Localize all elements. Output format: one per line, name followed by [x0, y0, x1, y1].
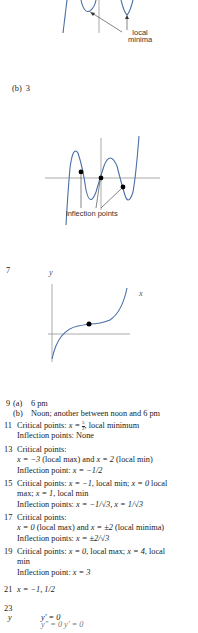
answer-9: 9 (a) 6 pm (b) Noon; another between noo…: [0, 399, 198, 420]
answer-number: 21: [4, 585, 12, 595]
answer-number: 11: [4, 421, 12, 431]
math: x = −1/√3, x = 1/√3: [76, 500, 143, 509]
text: , local min: [53, 489, 88, 498]
math: x = −1, 1/2: [17, 585, 55, 595]
answer-19: 19 Critical points: x = 0, local max; x …: [0, 547, 198, 578]
equation-partial: y″ = 0 y′ = 0: [41, 620, 84, 630]
text: , local max;: [86, 547, 127, 556]
text: Inflection points:: [17, 500, 76, 509]
annotation-line-2: minima: [128, 36, 152, 43]
part-b-value: 3: [26, 84, 30, 93]
text: (local minima): [113, 523, 164, 532]
answer-13: 13 Critical points: x = −3 (local max) a…: [0, 445, 198, 476]
text: Inflection points: None: [17, 431, 94, 441]
math: x = −3: [17, 455, 40, 464]
figure-local-minima: local minima: [0, 0, 198, 70]
text: Critical points:: [17, 513, 67, 523]
answer-11: 11 Critical points: x = 52, local minimu…: [0, 421, 198, 442]
math: x = ±2: [91, 523, 113, 532]
text: Inflection points:: [17, 534, 76, 543]
text: Critical points:: [17, 479, 69, 488]
answer-9a-label: (a): [13, 399, 22, 409]
math: x =: [69, 421, 82, 430]
answer-21: 21 x = −1, 1/2: [0, 585, 198, 595]
answer-number: 9: [6, 399, 10, 409]
math: x = −1: [69, 479, 92, 488]
math: x = 0: [131, 479, 149, 488]
answer-23: 23 y y′ = 0 y″ = 0 y′ = 0: [0, 604, 198, 633]
text: (local max) and: [40, 455, 96, 464]
math: x = 2: [96, 455, 114, 464]
answer-number: 19: [4, 547, 12, 557]
text: , local min;: [92, 479, 132, 488]
text: , local minimum: [85, 421, 140, 430]
math: x = 0: [17, 523, 35, 532]
text: local: [149, 479, 167, 488]
math: x = 1: [36, 489, 54, 498]
math: x = −1/2: [73, 466, 103, 475]
text: Critical points:: [17, 445, 67, 455]
part-b-answer: (b) 3: [12, 84, 30, 94]
part-b-label: (b): [12, 84, 22, 93]
graph-local-minima: [0, 0, 198, 70]
answer-9b-value: Noon; another between noon and 6 pm: [31, 409, 160, 419]
text: Critical points:: [17, 421, 69, 430]
answer-number: 15: [4, 479, 12, 489]
answer-9a-value: 6 pm: [31, 399, 48, 409]
text: , local: [145, 547, 165, 556]
answer-17: 17 Critical points: x = 0 (local max) an…: [0, 513, 198, 544]
graph-cubic: [0, 262, 198, 362]
math: x = 3: [73, 568, 91, 577]
math: x = ±2/√3: [76, 534, 109, 543]
text: Inflection point:: [17, 466, 73, 475]
answer-number: 13: [4, 445, 12, 455]
answer-15: 15 Critical points: x = −1, local min; x…: [0, 479, 198, 510]
text: min: [17, 557, 30, 567]
math: x = 0: [69, 547, 87, 556]
figure-inflection-points: inflection points: [0, 130, 198, 225]
inflection-points-annotation: inflection points: [66, 209, 118, 218]
local-minima-annotation: local minima: [128, 29, 152, 43]
text: (local min): [114, 455, 153, 464]
text: Inflection point:: [17, 568, 73, 577]
text: max;: [17, 489, 36, 498]
text: Critical points:: [17, 547, 69, 556]
math: x = 4: [127, 547, 145, 556]
figure-problem-7: y x: [0, 262, 198, 362]
text: (local max) and: [35, 523, 91, 532]
answer-9b-label: (b): [13, 409, 23, 419]
answer-number: 17: [4, 513, 12, 523]
